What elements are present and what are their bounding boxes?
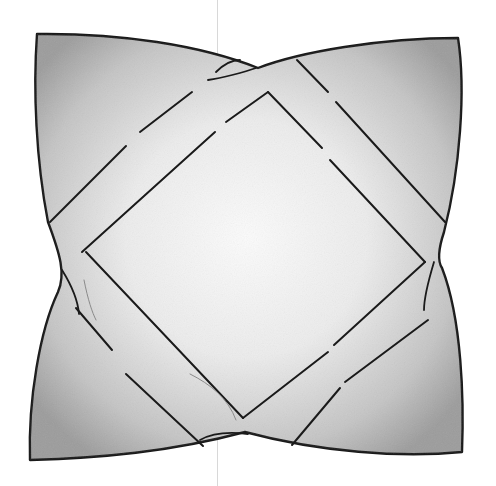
cushion-sketch [0, 0, 496, 486]
